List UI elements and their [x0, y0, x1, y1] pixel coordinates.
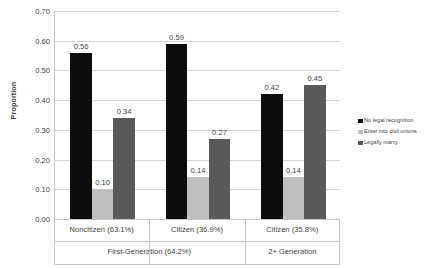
bar	[261, 94, 283, 219]
group-label: 2+ Generation	[268, 247, 316, 256]
y-axis-tick-label: 0.70	[35, 7, 50, 16]
plot-area: 0.560.100.340.590.140.270.420.140.45	[54, 11, 340, 219]
y-axis-tick-label: 0.40	[35, 96, 50, 105]
legend-swatch-icon	[358, 141, 363, 146]
bar-value-label: 0.45	[307, 74, 322, 83]
category-separator	[54, 219, 55, 264]
legend-swatch-icon	[358, 119, 363, 124]
bar	[209, 139, 231, 219]
bar	[304, 85, 326, 219]
bar-value-label: 0.14	[191, 166, 206, 175]
legend-item: No legal recognition	[358, 118, 424, 124]
bar	[92, 189, 114, 219]
gridline	[55, 70, 340, 71]
legend-label: Enter into civil unions	[364, 129, 417, 135]
bar	[70, 53, 92, 219]
category-separator	[245, 219, 246, 264]
category-separator	[149, 219, 150, 264]
y-axis-title: Proportion	[9, 66, 18, 136]
y-axis-tick-labels: 0.000.100.200.300.400.500.600.70	[20, 0, 52, 268]
y-axis-tick-label: 0.10	[35, 185, 50, 194]
bar-value-label: 0.42	[264, 83, 279, 92]
bar-value-label: 0.34	[117, 107, 132, 116]
bar	[113, 118, 135, 219]
legend-item: Enter into civil unions	[358, 129, 424, 135]
legend-label: No legal recognition	[364, 118, 413, 124]
bar-value-label: 0.27	[212, 128, 227, 137]
category-label: Citizen (35.8%)	[266, 225, 318, 234]
axis-line-bottom	[245, 264, 340, 265]
bar	[166, 44, 188, 219]
chart-legend: No legal recognitionEnter into civil uni…	[358, 118, 424, 151]
y-axis-tick-label: 0.60	[35, 36, 50, 45]
bar-value-label: 0.56	[74, 42, 89, 51]
axis-line-top	[54, 219, 340, 220]
axis-line-bottom	[54, 264, 245, 265]
y-axis-tick-label: 0.50	[35, 66, 50, 75]
y-axis-tick-label: 0.20	[35, 155, 50, 164]
axis-line-mid	[245, 241, 340, 242]
gridline	[55, 160, 340, 161]
legend-item: Legally marry	[358, 140, 424, 146]
bar	[283, 177, 305, 219]
bar	[187, 177, 209, 219]
category-axis: Noncitizen (63.1%)Citizen (36.9%)Citizen…	[54, 219, 340, 268]
gridline	[55, 130, 340, 131]
category-separator	[339, 219, 340, 264]
category-label: Citizen (36.9%)	[171, 225, 223, 234]
gridline	[55, 41, 340, 42]
bar-chart: Proportion 0.000.100.200.300.400.500.600…	[0, 0, 425, 268]
bar-value-label: 0.59	[169, 33, 184, 42]
category-label: Noncitizen (63.1%)	[70, 225, 134, 234]
gridline	[55, 11, 340, 12]
y-axis-tick-label: 0.30	[35, 125, 50, 134]
bar-value-label: 0.14	[286, 166, 301, 175]
gridline	[55, 100, 340, 101]
legend-label: Legally marry	[364, 140, 398, 146]
legend-swatch-icon	[358, 130, 363, 135]
bar-value-label: 0.10	[95, 178, 110, 187]
y-axis-tick-label: 0.00	[35, 215, 50, 224]
